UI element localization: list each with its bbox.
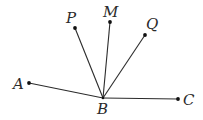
segment-BQ [103,35,145,98]
angle-diagram: ABCPMQ [0,0,203,120]
label-P: P [65,9,77,27]
segment-BC [103,98,178,99]
label-M: M [102,3,119,21]
label-B: B [96,100,108,118]
label-A: A [11,75,24,93]
segment-BM [103,22,110,98]
point-A [27,81,31,85]
point-C [176,97,180,101]
segment-BP [75,28,103,98]
label-Q: Q [146,15,158,33]
label-C: C [183,91,195,109]
point-B [102,97,105,100]
point-Q [143,33,147,37]
segment-BA [29,83,103,98]
